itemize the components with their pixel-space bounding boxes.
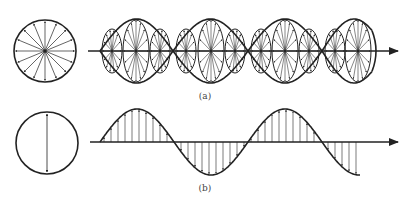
e-field-vector-arrow	[152, 42, 160, 51]
e-field-vector-arrow	[45, 30, 66, 51]
center-dot	[43, 49, 46, 52]
e-field-vector-arrow	[227, 51, 235, 60]
e-field-vector-arrow	[128, 51, 136, 72]
e-field-vector-arrow	[186, 51, 194, 60]
e-field-vector-arrow	[203, 51, 211, 72]
e-field-vector-arrow	[301, 51, 309, 60]
e-field-vector-arrow	[285, 51, 293, 72]
e-field-vector-arrow	[136, 51, 144, 72]
e-field-vector-arrow	[136, 30, 144, 51]
e-field-vector-arrow	[327, 51, 335, 60]
e-field-vector-arrow	[309, 51, 317, 60]
e-field-vector-arrow	[104, 42, 112, 51]
panel-a-caption: (a)	[199, 91, 211, 101]
e-field-vector-arrow	[186, 42, 194, 51]
e-field-vector-arrow	[178, 42, 186, 51]
e-field-vector-arrow	[235, 51, 243, 60]
e-field-vector-arrow	[235, 42, 243, 51]
panel-b-polarized	[16, 109, 398, 175]
e-field-vector-arrow	[160, 42, 168, 51]
e-field-vector-arrow	[350, 51, 358, 72]
e-field-vector-arrow	[335, 42, 343, 51]
polarization-figure: (a) (b)	[0, 0, 410, 207]
e-field-vector-arrow	[24, 51, 45, 72]
e-field-vector-arrow	[152, 51, 160, 60]
e-field-vector-arrow	[261, 51, 269, 60]
e-field-vector-arrow	[277, 30, 285, 51]
e-field-vector-arrow	[211, 30, 219, 51]
e-field-vector-arrow	[358, 30, 366, 51]
envelope-bottom	[100, 51, 173, 83]
e-field-vector-arrow	[261, 42, 269, 51]
envelope-top	[100, 19, 173, 51]
e-field-vector-arrow	[112, 51, 120, 60]
e-field-vector-arrow	[253, 51, 261, 60]
e-field-vector-arrow	[227, 42, 235, 51]
e-field-vector-arrow	[160, 51, 168, 60]
e-field-vector-arrow	[203, 30, 211, 51]
unpolarized-end-view	[14, 20, 76, 82]
panel-a-unpolarized	[14, 19, 398, 83]
e-field-vector-arrow	[112, 42, 120, 51]
e-field-vector-arrow	[277, 51, 285, 72]
e-field-vector-arrow	[104, 51, 112, 60]
polarized-end-view	[16, 112, 78, 174]
e-field-vector-arrow	[301, 42, 309, 51]
e-field-vector-arrow	[178, 51, 186, 60]
figure-canvas	[0, 0, 410, 207]
e-field-vector-arrow	[358, 51, 366, 72]
e-field-vector-arrow	[45, 51, 66, 72]
panel-b-caption: (b)	[199, 183, 212, 193]
e-field-vector-arrow	[335, 51, 343, 60]
e-field-vector-arrow	[285, 30, 293, 51]
e-field-vector-arrow	[211, 51, 219, 72]
e-field-vector-arrow	[128, 30, 136, 51]
e-field-vector-arrow	[327, 42, 335, 51]
e-field-vector-arrow	[309, 42, 317, 51]
e-field-vector-arrow	[350, 30, 358, 51]
e-field-vector-arrow	[253, 42, 261, 51]
e-field-vector-arrow	[24, 30, 45, 51]
